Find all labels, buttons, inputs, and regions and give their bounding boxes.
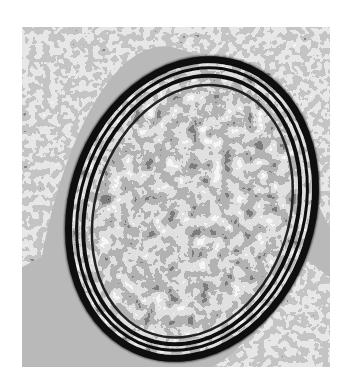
micrograph-image	[22, 27, 330, 367]
micrograph	[22, 27, 330, 367]
